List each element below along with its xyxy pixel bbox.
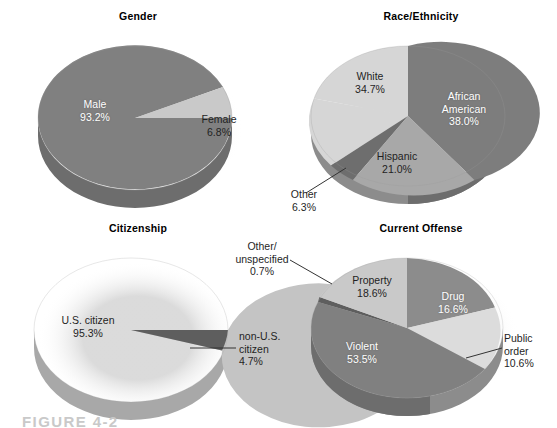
callout-label-other-race: Other 6.3%	[274, 188, 334, 213]
slice-label-drug: Drug 16.6%	[420, 290, 486, 315]
figure-caption: FIGURE 4-2	[22, 413, 119, 428]
slice-label-violent: Violent 53.5%	[324, 340, 400, 365]
panel-race-ethnicity: Race/Ethnicity	[290, 10, 552, 215]
callout-label-other-unspecified: Other/ unspecified 0.7%	[220, 240, 304, 278]
panel-title-current-offense: Current Offense	[290, 222, 552, 234]
slice-label-african-american: African American 38.0%	[425, 90, 503, 128]
slice-label-male: Male 93.2%	[50, 98, 140, 123]
panel-current-offense: Current Offense	[290, 222, 552, 422]
panel-gender: Gender Male 93	[8, 10, 268, 210]
slice-label-us-citizen: U.S. citizen 95.3%	[38, 314, 138, 339]
slice-label-hispanic: Hispanic 21.0%	[356, 150, 438, 175]
panel-title-gender: Gender	[8, 10, 268, 22]
slice-label-female: Female 6.8%	[183, 113, 255, 138]
panel-title-race-ethnicity: Race/Ethnicity	[290, 10, 552, 22]
figure-container: Gender Male 93	[0, 0, 557, 428]
callout-label-public-order: Public order 10.6%	[504, 332, 557, 370]
pie-chart-current-offense	[300, 244, 530, 422]
panel-title-citizenship: Citizenship	[8, 222, 268, 234]
slice-label-property: Property 18.6%	[332, 274, 412, 299]
slice-label-white: White 34.7%	[332, 70, 408, 95]
